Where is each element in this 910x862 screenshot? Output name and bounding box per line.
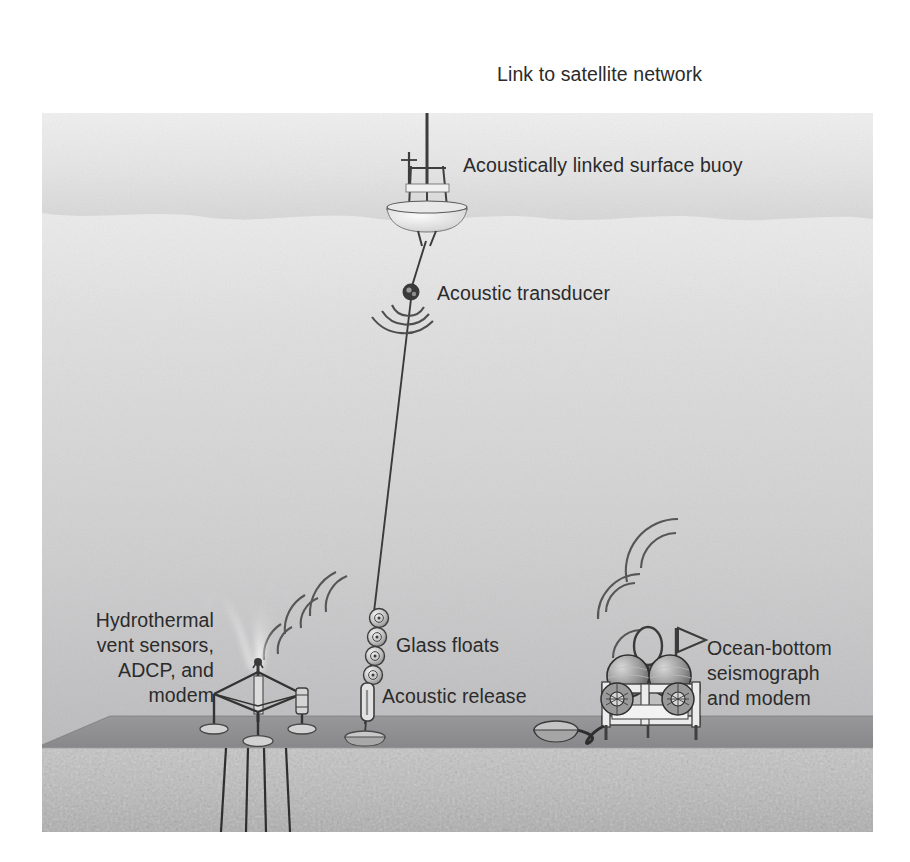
illustration-body bbox=[42, 56, 873, 832]
label-acoustic-transducer: Acoustic transducer bbox=[437, 281, 610, 306]
label-surface-buoy: Acoustically linked surface buoy bbox=[463, 153, 743, 178]
seafloor bbox=[42, 716, 873, 832]
label-satellite-link: Link to satellite network bbox=[497, 62, 702, 87]
label-ocean-bottom-seismograph: Ocean-bottom seismograph and modem bbox=[707, 636, 867, 711]
label-hydrothermal-package: Hydrothermal vent sensors, ADCP, and mod… bbox=[54, 608, 214, 708]
satellite-link-symbol bbox=[433, 56, 489, 105]
label-acoustic-release: Acoustic release bbox=[382, 684, 527, 709]
label-glass-floats: Glass floats bbox=[396, 633, 499, 658]
scene-illustration bbox=[0, 0, 910, 862]
mooring-anchor bbox=[345, 731, 385, 746]
oceanographic-diagram: Link to satellite network Acoustically l… bbox=[0, 0, 910, 862]
